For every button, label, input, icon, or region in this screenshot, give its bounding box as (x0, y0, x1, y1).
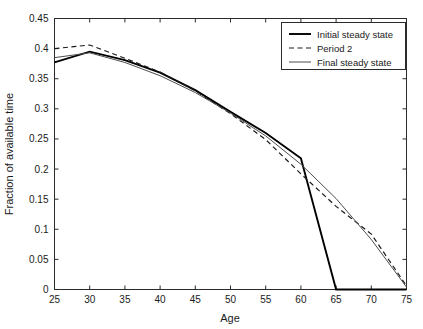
x-tick-label: 75 (401, 294, 413, 305)
y-tick-label: 0.1 (35, 224, 49, 235)
chart-legend: Initial steady statePeriod 2Final steady… (282, 23, 406, 70)
y-tick-label: 0.45 (29, 13, 49, 24)
y-axis-title: Fraction of available time (3, 93, 15, 215)
x-tick-label: 35 (119, 294, 131, 305)
data-series-group (55, 45, 407, 290)
x-axis-tick-labels: 2530354045505560657075 (49, 294, 413, 305)
x-tick-label: 60 (295, 294, 307, 305)
y-tick-label: 0.4 (35, 43, 49, 54)
y-axis-tick-labels: 00.050.10.150.20.250.30.350.40.45 (29, 13, 49, 295)
x-tick-label: 45 (190, 294, 202, 305)
series-line-0 (55, 52, 407, 290)
line-chart: 2530354045505560657075 00.050.10.150.20.… (0, 0, 423, 329)
y-tick-label: 0.05 (29, 254, 49, 265)
x-tick-label: 40 (155, 294, 167, 305)
y-tick-label: 0.15 (29, 194, 49, 205)
y-tick-label: 0.25 (29, 133, 49, 144)
y-tick-label: 0.35 (29, 73, 49, 84)
x-axis-title: Age (220, 312, 240, 324)
x-tick-label: 65 (331, 294, 343, 305)
legend-label-1: Period 2 (317, 43, 352, 54)
legend-label-2: Final steady state (317, 57, 391, 68)
x-tick-label: 70 (366, 294, 378, 305)
chart-figure: 2530354045505560657075 00.050.10.150.20.… (0, 0, 423, 329)
x-tick-label: 50 (225, 294, 237, 305)
x-tick-label: 30 (84, 294, 96, 305)
legend-label-0: Initial steady state (317, 29, 393, 40)
x-tick-label: 25 (49, 294, 61, 305)
series-line-1 (55, 45, 407, 286)
series-line-2 (55, 53, 407, 287)
y-tick-label: 0 (43, 284, 49, 295)
y-tick-label: 0.3 (35, 103, 49, 114)
y-tick-label: 0.2 (35, 164, 49, 175)
x-tick-label: 55 (260, 294, 272, 305)
